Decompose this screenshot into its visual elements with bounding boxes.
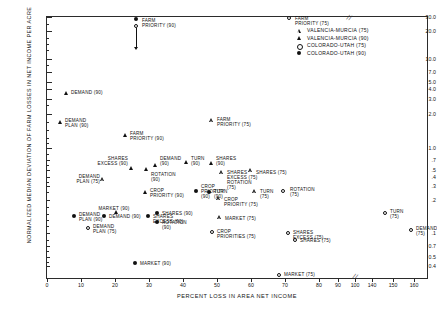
x-tick-label: 80 (309, 283, 329, 288)
data-point (252, 189, 256, 193)
y-minor-tick (46, 251, 49, 252)
x-tick-label: 150 (383, 283, 403, 288)
data-point-label: TURN (75) (260, 189, 274, 199)
data-point (277, 273, 281, 277)
y-tick-label: 0.5 (392, 255, 436, 260)
legend-label: COLORADO-UTAH (75) (307, 42, 366, 48)
y-minor-tick (46, 50, 49, 51)
data-point (210, 230, 214, 234)
data-point-label: FARM PRIORITY (90) (142, 18, 176, 28)
y-minor-tick (46, 130, 49, 131)
y-tick (46, 82, 52, 83)
data-point (194, 189, 198, 193)
y-tick-label: 1.0 (392, 146, 436, 151)
data-point (143, 190, 147, 194)
y-tick-label: 10.0 (392, 57, 436, 62)
data-point-label: ROTATION (90) (162, 220, 187, 230)
y-tick (46, 99, 52, 100)
top-axis-break-mark: // (346, 13, 353, 23)
data-point-label: CROP PRIORITY (75) (224, 197, 258, 207)
y-minor-tick (46, 214, 49, 215)
y-minor-tick (46, 105, 49, 106)
data-point-label: SHARES (90) (216, 156, 236, 166)
data-point (64, 91, 68, 95)
data-point (287, 16, 291, 20)
data-point-label: ROTATION (90) (151, 172, 176, 182)
y-minor-tick (46, 143, 49, 144)
data-point (281, 189, 285, 193)
data-point-label: DEMAND PLAN (90) (65, 118, 88, 128)
y-tick (46, 17, 52, 18)
data-point (102, 214, 106, 218)
data-point-label: SHARES EXCESS (90) (58, 156, 128, 166)
data-point (123, 133, 127, 137)
y-minor-tick (46, 165, 49, 166)
data-point-label: SHARES EXCESS (75) ROTATION (75) (227, 170, 258, 190)
legend-marker-icon (297, 51, 301, 55)
data-point-label: MARKET (90) (79, 206, 149, 211)
y-minor-tick (46, 226, 49, 227)
data-point (383, 211, 387, 215)
y-tick (46, 31, 52, 32)
data-point-label: FARM PRIORITY (75) (295, 16, 329, 26)
data-point (216, 196, 220, 200)
data-point-label: MARKET (90) (140, 261, 171, 266)
x-tick-label: 60 (241, 283, 261, 288)
legend: VALENCIA-MURCIA (75)VALENCIA-MURCIA (90)… (296, 27, 369, 57)
y-tick (46, 160, 50, 161)
x-tick-label: 10 (71, 283, 91, 288)
data-point (100, 177, 104, 181)
y-tick (46, 257, 50, 258)
data-point-label: CROP PRIORITY (90) (150, 188, 184, 198)
x-tick-label: 0 (37, 283, 57, 288)
y-tick (46, 170, 50, 171)
y-tick-label: 30.0 (392, 15, 436, 20)
y-tick-label: 4.0 (392, 87, 436, 92)
data-point-label: CROP PRIORITIES (75) (217, 229, 256, 239)
y-axis-title: NORMALIZED MEDIAN DEVIATION OF FARM LOSS… (26, 0, 32, 250)
legend-label: COLORADO-UTAH (90) (307, 50, 366, 56)
data-point (217, 215, 221, 219)
x-axis-title: PERCENT LOSS IN AREA NET INCOME (46, 293, 428, 299)
y-tick (46, 246, 50, 247)
data-point (134, 17, 138, 21)
data-point-label: DEMAND (75) (416, 226, 437, 236)
plot-top-border (46, 16, 428, 17)
data-point-label: DEMAND PLAN (75) (30, 174, 100, 184)
legend-label: VALENCIA-MURCIA (90) (307, 35, 369, 41)
y-minor-tick (46, 38, 49, 39)
y-tick-label: .5 (392, 168, 436, 173)
y-tick (46, 266, 50, 267)
x-tick-label: 40 (173, 283, 193, 288)
x-tick-label: 50 (207, 283, 227, 288)
y-tick-label: 2.0 (392, 112, 436, 117)
data-point (209, 118, 213, 122)
data-point-label: SHARES (75) (300, 238, 331, 243)
legend-marker-icon (297, 36, 301, 40)
y-tick-label: 7.0 (392, 70, 436, 75)
data-point (146, 214, 150, 218)
y-minor-tick (46, 220, 49, 221)
y-tick-label: 0.7 (392, 244, 436, 249)
y-minor-tick (46, 192, 49, 193)
y-tick-label: 0.4 (392, 264, 436, 269)
data-point (144, 167, 148, 171)
y-minor-tick (46, 240, 49, 241)
y-tick (46, 89, 52, 90)
legend-item: VALENCIA-MURCIA (90) (296, 35, 369, 43)
y-tick-label: 20.0 (392, 29, 436, 34)
data-point (86, 226, 90, 230)
y-minor-tick (46, 138, 49, 139)
y-axis-line (46, 16, 47, 278)
data-point-label: TURN (90) (191, 156, 205, 166)
data-point-label: FARM PRIORITY (90) (130, 131, 164, 141)
y-tick (46, 233, 50, 234)
data-point-label: SHARES (75) (256, 170, 287, 175)
y-tick-label: .4 (392, 175, 436, 180)
x-axis-line (46, 278, 428, 279)
data-point (58, 120, 62, 124)
data-point (153, 163, 157, 167)
data-point-label: DEMAND (90) (71, 90, 103, 95)
y-minor-tick (46, 65, 49, 66)
